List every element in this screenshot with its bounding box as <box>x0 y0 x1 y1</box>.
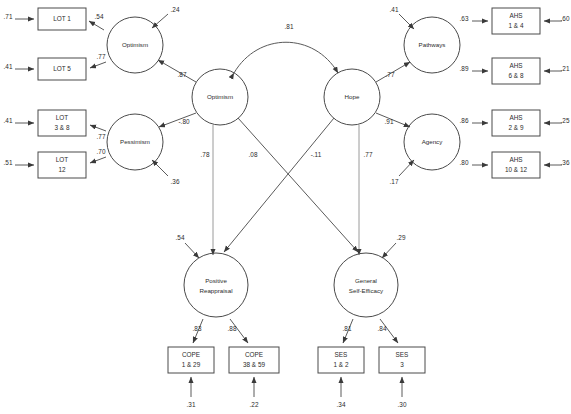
loading-value: .89 <box>460 65 469 72</box>
path-coefficient: -.80 <box>178 118 189 125</box>
residual-value: .36 <box>561 159 570 166</box>
indicator-label-2: 1 & 4 <box>509 22 524 29</box>
path-opt2-to-optimism-first: .87 <box>158 60 196 82</box>
latent-hope: Hope <box>324 69 380 125</box>
path-coefficient: .77 <box>364 151 373 158</box>
loading-value: .54 <box>95 13 104 20</box>
loading-value: .86 <box>460 117 469 124</box>
latent-label: Hope <box>345 93 360 100</box>
indicator-label: LOT <box>56 156 69 163</box>
path-coefficient: .77 <box>386 71 395 78</box>
loading-value: .81 <box>343 325 352 332</box>
sem-diagram: LOT 1 .71 .54 LOT 5 .41 .77 LOT 3 & 8 .4… <box>0 0 571 414</box>
latent-label-2: Reappraisal <box>199 287 232 294</box>
indicator-label: AHS <box>509 62 522 69</box>
residual-value: .41 <box>4 63 13 70</box>
latent-agency: Agency .17 <box>390 114 460 185</box>
latent-label-2: Self-Efficacy <box>349 287 384 294</box>
indicator-cope3859: COPE 38 & 59 .88 .22 <box>228 319 279 408</box>
residual-value: .21 <box>561 65 570 72</box>
path-opt2-to-positive-reappraisal: .78 <box>201 125 213 255</box>
loading-arrow <box>89 21 104 30</box>
latent-positive-reappraisal: Positive Reappraisal .54 <box>176 234 248 317</box>
residual-value: .31 <box>187 401 196 408</box>
residual-value: .60 <box>561 15 570 22</box>
loading-arrow <box>90 125 106 131</box>
indicator-label-2: 2 & 9 <box>509 124 524 131</box>
indicator-label: SES <box>335 351 348 358</box>
path-coefficient: .91 <box>385 118 394 125</box>
indicator-label: SES <box>396 351 409 358</box>
indicator-ahs68: AHS 6 & 8 .89 .21 <box>460 58 570 84</box>
indicator-label: AHS <box>509 156 522 163</box>
disturbance-arrow <box>152 14 168 28</box>
indicator-label-2: 1 & 2 <box>334 361 349 368</box>
disturbance-value: .24 <box>171 6 180 13</box>
path-coefficient: .78 <box>201 151 210 158</box>
path-arrow <box>238 118 358 252</box>
indicator-lot38: LOT 3 & 8 .41 .77 <box>4 110 106 140</box>
residual-value: .25 <box>561 117 570 124</box>
latent-optimism-second: Optimism <box>192 69 248 125</box>
indicator-ses12: SES 1 & 2 .81 .34 <box>318 319 364 408</box>
indicator-label: AHS <box>509 114 522 121</box>
disturbance-value: .17 <box>390 178 399 185</box>
loading-value: .77 <box>97 133 106 140</box>
indicator-label: LOT <box>56 114 69 121</box>
latent-label: Pessimism <box>120 138 150 145</box>
loading-value: .63 <box>460 15 469 22</box>
residual-value: .71 <box>4 13 13 20</box>
latent-pathways: Pathways .41 <box>390 6 460 73</box>
disturbance-value: .29 <box>397 234 406 241</box>
indicator-label-2: 3 <box>400 361 404 368</box>
latent-circle <box>334 253 398 317</box>
disturbance-value: .36 <box>171 178 180 185</box>
disturbance-arrow <box>399 14 414 29</box>
latent-label: Positive <box>205 277 227 284</box>
indicator-lot1: LOT 1 .71 .54 <box>4 8 104 30</box>
loading-value: .88 <box>228 325 237 332</box>
residual-value: .22 <box>250 401 259 408</box>
loading-value: .84 <box>378 325 387 332</box>
latent-pessimism: Pessimism .36 <box>107 114 180 185</box>
indicator-group-lot: LOT 1 .71 .54 LOT 5 .41 .77 LOT 3 & 8 .4… <box>4 8 106 178</box>
sem-canvas: LOT 1 .71 .54 LOT 5 .41 .77 LOT 3 & 8 .4… <box>0 0 571 414</box>
loading-arrow <box>90 157 106 163</box>
latent-label: General <box>355 277 377 284</box>
path-opt2-to-pessimism: -.80 <box>159 113 196 127</box>
indicator-ahs14: AHS 1 & 4 .63 .60 <box>460 8 570 34</box>
indicator-label: LOT 5 <box>53 65 71 72</box>
indicator-ahs1012: AHS 10 & 12 .80 .36 <box>460 152 570 178</box>
indicator-label-2: 1 & 29 <box>182 361 201 368</box>
disturbance-arrow <box>152 160 168 176</box>
indicator-label-2: 10 & 12 <box>505 166 527 173</box>
indicator-label: LOT 1 <box>53 15 71 22</box>
indicator-label: COPE <box>182 351 200 358</box>
indicator-group-bottom: COPE 1 & 29 .83 .31 COPE 38 & 59 .88 .22… <box>168 319 425 408</box>
disturbance-value: .41 <box>390 6 399 13</box>
path-arrow <box>224 118 334 252</box>
latent-label: Optimism <box>122 41 148 48</box>
loading-arrow <box>90 62 106 68</box>
latent-label: Pathways <box>419 41 446 48</box>
correlation-optimism-hope: .81 <box>234 23 338 73</box>
path-hope-to-general-self-efficacy: .77 <box>359 125 373 255</box>
indicator-label: AHS <box>509 12 522 19</box>
indicator-label: COPE <box>245 351 263 358</box>
path-coefficient: .08 <box>249 151 258 158</box>
latent-general-self-efficacy: General Self-Efficacy .29 <box>334 234 406 317</box>
residual-value: .34 <box>337 401 346 408</box>
disturbance-arrow <box>185 243 199 258</box>
indicator-lot12: LOT 12 .51 .70 <box>4 148 106 178</box>
path-hope-to-pathways: .77 <box>376 62 410 82</box>
latent-label: Optimism <box>207 93 233 100</box>
loading-value: .77 <box>97 53 106 60</box>
indicator-label-2: 12 <box>58 166 66 173</box>
disturbance-value: .54 <box>176 234 185 241</box>
indicator-lot5: LOT 5 .41 .77 <box>4 53 106 80</box>
indicator-cope129: COPE 1 & 29 .83 .31 <box>168 319 214 408</box>
indicator-label-2: 3 & 8 <box>55 124 70 131</box>
path-hope-to-agency: .91 <box>376 113 410 127</box>
indicator-group-ahs: AHS 1 & 4 .63 .60 AHS 6 & 8 .89 .21 AHS … <box>460 8 570 178</box>
latent-label: Agency <box>422 138 444 145</box>
